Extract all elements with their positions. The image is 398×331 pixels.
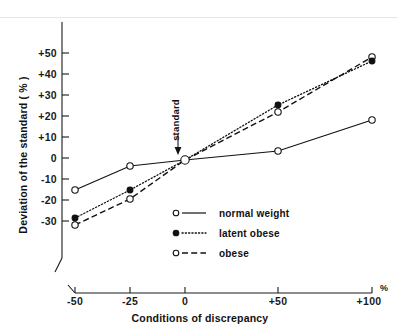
chart-legend: normal weight latent obese obese [173, 208, 290, 259]
y-tick-label-0: 0 [51, 152, 57, 164]
y-tick-label-20: +20 [38, 110, 57, 122]
legend-marker-filled-circle-icon [173, 230, 179, 236]
series-normal-weight-line [75, 120, 372, 190]
legend-item-latent-obese: latent obese [173, 228, 280, 239]
data-point-normal-weight-neg50 [72, 187, 78, 193]
chart-canvas: +50 +40 +30 +20 +10 0 -10 -20 -30 Deviat… [0, 0, 398, 331]
legend-marker-open-circle-dashed-icon [173, 250, 179, 256]
legend-label-latent-obese: latent obese [219, 228, 280, 239]
x-axis-percent-sign: % [380, 283, 388, 293]
chart-figure: +50 +40 +30 +20 +10 0 -10 -20 -30 Deviat… [0, 0, 398, 331]
x-tick-label-neg50: -50 [67, 295, 83, 307]
data-point-latent-obese-100 [369, 58, 375, 64]
data-point-normal-weight-neg25 [127, 163, 133, 169]
legend-label-normal-weight: normal weight [219, 208, 290, 219]
y-axis: +50 +40 +30 +20 +10 0 -10 -20 -30 Deviat… [17, 22, 69, 272]
y-tick-label-30: +30 [38, 89, 57, 101]
x-tick-label-100: +100 [357, 295, 382, 307]
data-point-obese-neg25 [127, 196, 133, 202]
standard-annotation-label: standard [170, 99, 181, 141]
data-point-standard-origin [181, 156, 189, 164]
series-obese [72, 54, 375, 228]
y-tick-label-neg10: -10 [41, 173, 57, 185]
y-axis-title: Deviation of the standard ( % ) [17, 76, 29, 233]
x-axis-title: Conditions of discrepancy [132, 312, 269, 324]
legend-marker-open-circle-icon [173, 210, 179, 216]
data-point-latent-obese-neg25 [127, 187, 133, 193]
y-axis-break [55, 258, 62, 272]
data-point-normal-weight-50 [275, 148, 281, 154]
y-tick-label-50: +50 [38, 47, 57, 59]
series-normal-weight [72, 117, 375, 193]
x-tick-label-0: 0 [182, 295, 188, 307]
data-point-obese-50 [275, 109, 281, 115]
data-point-latent-obese-neg50 [72, 215, 78, 221]
x-axis: -50 -25 0 +50 +100 % Conditions of discr… [67, 283, 388, 324]
y-tick-label-10: +10 [38, 131, 57, 143]
y-tick-label-neg30: -30 [41, 215, 57, 227]
data-point-obese-neg50 [72, 222, 78, 228]
legend-item-obese: obese [173, 248, 249, 259]
series-latent-obese-line [75, 61, 372, 218]
standard-arrow-head-icon [175, 147, 182, 155]
legend-label-obese: obese [219, 248, 249, 259]
series-latent-obese [72, 58, 375, 221]
y-tick-label-40: +40 [38, 68, 57, 80]
standard-annotation: standard [170, 99, 181, 155]
x-tick-label-50: +50 [269, 295, 288, 307]
x-tick-label-neg25: -25 [122, 295, 138, 307]
data-point-normal-weight-100 [369, 117, 375, 123]
x-axis-break [68, 285, 75, 293]
y-tick-label-neg20: -20 [41, 194, 57, 206]
data-point-latent-obese-50 [275, 102, 281, 108]
legend-item-normal-weight: normal weight [173, 208, 290, 219]
